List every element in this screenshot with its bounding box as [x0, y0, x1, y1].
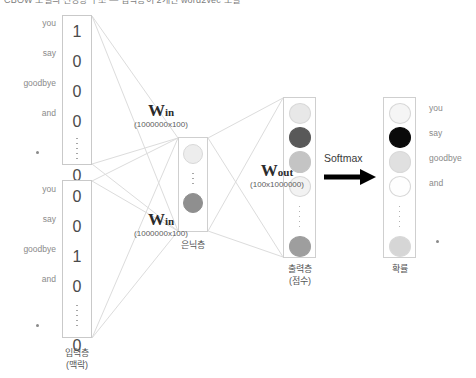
weight-wout-dims: (100x1000000) [218, 180, 336, 189]
input-layer-caption-line2: (맥락) [42, 359, 112, 371]
input1-cell-3: 0 [73, 114, 82, 130]
weight-win-1-label: Win (1000000x100) [102, 101, 220, 129]
input2-word-label-say: say [10, 214, 56, 224]
input2-word-label-goodbye: goodbye [4, 244, 56, 254]
probability-layer-box [383, 97, 416, 258]
probability-word-label-and: and [429, 178, 475, 188]
weight-wout-label: Wout (100x1000000) [218, 161, 336, 189]
input-layer-caption: 입력층 (맥락) [42, 347, 112, 371]
probability-layer-caption: 확률 [369, 263, 431, 275]
weight-win-1-subscript: in [165, 106, 174, 118]
input2-cell-2: 1 [73, 249, 82, 265]
input1-word-label-ellipsis [36, 151, 39, 154]
input2-cell-3: 0 [73, 279, 82, 295]
input2-cell-1: 0 [73, 219, 82, 235]
probability-layer-caption-line1: 확률 [369, 263, 431, 275]
weight-win-2-dims: (1000000x100) [102, 229, 220, 238]
output-node-tail [289, 236, 311, 257]
output-layer-caption-line1: 출력층 [269, 263, 331, 275]
input1-ellipsis [76, 136, 78, 161]
output-layer-caption-line2: (점수) [269, 275, 331, 287]
input2-cell-0: 0 [73, 189, 82, 205]
input2-word-label-and: and [10, 274, 56, 284]
input1-word-label-you: you [10, 18, 56, 28]
input1-word-label-say: say [10, 48, 56, 58]
output-node-0 [289, 103, 311, 124]
hidden-layer-caption: 은닉층 [163, 239, 223, 251]
weight-win-2-symbol-text: W [148, 210, 165, 229]
input1-word-label-goodbye: goodbye [4, 78, 56, 88]
page-title: CBOW 모델의 신경망 구조 — 입력층이 2개인 word2vec 모델 [4, 0, 240, 6]
softmax-arrow-icon [322, 168, 378, 186]
output-node-1 [289, 127, 311, 148]
probability-word-label-say: say [429, 128, 475, 138]
input1-cell-1: 0 [73, 54, 82, 70]
hidden-node-0 [183, 144, 203, 164]
probability-node-3 [389, 176, 411, 197]
probability-node-2 [389, 151, 411, 172]
probability-word-label-you: you [429, 103, 475, 113]
probability-node-tail [389, 236, 411, 257]
input-layer-caption-line1: 입력층 [42, 347, 112, 359]
input2-word-label-you: you [10, 184, 56, 194]
probability-node-0 [389, 103, 411, 124]
weight-win-1-dims: (1000000x100) [102, 120, 220, 129]
probability-ellipsis [399, 204, 401, 229]
weight-wout-symbol-text: W [261, 161, 278, 180]
input2-word-label-ellipsis [36, 324, 39, 327]
input1-word-label-and: and [10, 108, 56, 118]
input1-cell-0: 1 [73, 24, 82, 40]
weight-win-1-symbol: Win [102, 101, 220, 121]
hidden-layer-caption-line1: 은닉층 [163, 239, 223, 251]
probability-word-label-ellipsis [436, 240, 439, 243]
output-layer-caption: 출력층 (점수) [269, 263, 331, 287]
input1-cell-2: 0 [73, 84, 82, 100]
diagram-canvas: CBOW 모델의 신경망 구조 — 입력층이 2개인 word2vec 모델 y… [0, 0, 476, 378]
softmax-label: Softmax [324, 152, 363, 164]
weight-win-2-subscript: in [165, 215, 174, 227]
weight-wout-subscript: out [278, 166, 293, 178]
probability-node-1 [389, 127, 411, 148]
weight-win-1-symbol-text: W [148, 101, 165, 120]
weight-wout-symbol: Wout [218, 161, 336, 181]
hidden-ellipsis [192, 171, 194, 186]
input-vector-1: 1 0 0 0 0 [62, 15, 92, 165]
input2-ellipsis [76, 303, 78, 328]
weight-win-2-label: Win (1000000x100) [102, 210, 220, 238]
input-vector-2: 0 0 1 0 0 [62, 180, 92, 338]
probability-word-label-goodbye: goodbye [429, 153, 476, 163]
output-ellipsis [299, 204, 301, 229]
weight-win-2-symbol: Win [102, 210, 220, 230]
